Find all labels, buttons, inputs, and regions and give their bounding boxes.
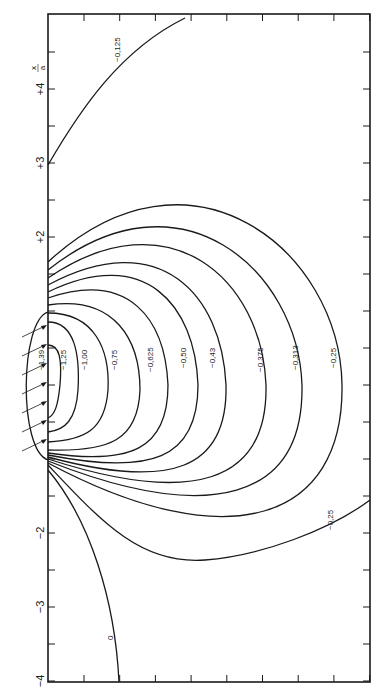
arrowhead-icon: [41, 420, 47, 425]
axis-label-denominator: a: [38, 65, 47, 70]
contour-label-0375: −0,375: [256, 347, 265, 372]
contour-label-100: −1,00: [80, 349, 89, 370]
axis-tick-label: +3: [34, 157, 46, 170]
axis-tick-label: −2: [34, 527, 46, 540]
velocity-arrow: [22, 384, 43, 394]
contour-line-043: [48, 263, 226, 472]
velocity-arrow: [22, 422, 43, 432]
contour-label-050: −0,50: [179, 347, 188, 368]
contour-labels: −1,39 −1,25 −1,00 −0,75 −0,625 −0,50 −0,…: [37, 37, 338, 640]
contour-label-025-lower: −0,25: [326, 509, 335, 530]
axis-tick-label: +2: [34, 231, 46, 244]
contour-label-139: −1,39: [37, 349, 46, 370]
contour-label-0: 0: [106, 635, 115, 640]
contour-label-043: −0,43: [208, 347, 217, 368]
axis-label-numerator: x: [29, 66, 38, 70]
arrowhead-icon: [41, 439, 47, 444]
contour-diagram: +4+3+2−2−3−4 x a −1,39 −1,25 −1,00 −0,75…: [0, 0, 381, 694]
contour-line-125: [48, 322, 78, 432]
axis-tick-label: −3: [34, 601, 46, 614]
arrowhead-icon: [41, 382, 47, 387]
velocity-arrow: [22, 441, 43, 451]
contour-label-0125: −0,125: [113, 37, 122, 62]
contour-label-0313: −0,313: [291, 345, 300, 370]
arrowhead-icon: [41, 344, 47, 349]
arrowhead-icon: [41, 325, 47, 330]
arrowhead-icon: [41, 401, 47, 406]
axis-tick-label: −4: [34, 675, 46, 688]
contour-label-025: −0,25: [329, 347, 338, 368]
axis-tick-label: +4: [34, 83, 46, 96]
contour-label-125: −1,25: [59, 349, 68, 370]
velocity-profile-curve: [26, 312, 48, 460]
contour-line-025-lower: [48, 465, 370, 560]
axis-fraction-label: x a: [29, 64, 47, 72]
contour-label-0625: −0,625: [146, 347, 155, 372]
contour-label-075: −0,75: [110, 349, 119, 370]
velocity-arrow: [22, 403, 43, 413]
